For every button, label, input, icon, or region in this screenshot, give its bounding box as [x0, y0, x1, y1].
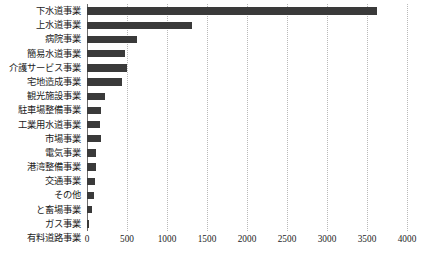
bar-row: [87, 75, 407, 89]
bar: [87, 64, 127, 71]
bar: [87, 50, 125, 57]
bar-row: [87, 217, 407, 231]
bar-row: [87, 89, 407, 103]
category-label: 観光施設事業: [0, 89, 84, 103]
category-label: 上水道事業: [0, 18, 84, 32]
bar-row: [87, 160, 407, 174]
bar-row: [87, 146, 407, 160]
bar: [87, 149, 96, 156]
x-tick-label: 4000: [398, 234, 417, 244]
x-tick-label: 3500: [358, 234, 377, 244]
x-tick-label: 2500: [278, 234, 297, 244]
value-axis-tick-labels: 05001000150020002500300035004000: [0, 234, 425, 254]
bar: [87, 178, 95, 185]
bar: [87, 93, 105, 100]
bar-row: [87, 203, 407, 217]
category-label: 病院事業: [0, 32, 84, 46]
x-tick-label: 1500: [198, 234, 217, 244]
x-tick-label: 500: [120, 234, 134, 244]
category-label: 駐車場整備事業: [0, 103, 84, 117]
category-label: 宅地造成事業: [0, 75, 84, 89]
x-tick-label: 0: [85, 234, 90, 244]
bar-rows: [87, 4, 407, 231]
bar: [87, 7, 377, 14]
bar: [87, 192, 94, 199]
bar: [87, 121, 100, 128]
x-tick-label: 1000: [158, 234, 177, 244]
category-label: 電気事業: [0, 146, 84, 160]
bar: [87, 22, 192, 29]
gridline-4000: [407, 4, 408, 231]
bar-row: [87, 61, 407, 75]
bar: [87, 220, 89, 227]
horizontal-bar-chart: 下水道事業上水道事業病院事業簡易水道事業介護サービス事業宅地造成事業観光施設事業…: [0, 0, 425, 265]
bar: [87, 78, 122, 85]
bar: [87, 163, 96, 170]
category-label: 交通事業: [0, 174, 84, 188]
bar-row: [87, 132, 407, 146]
bar-row: [87, 32, 407, 46]
bar-row: [87, 103, 407, 117]
bar: [87, 206, 92, 213]
bar: [87, 135, 101, 142]
x-tick-label: 2000: [238, 234, 257, 244]
bar-row: [87, 118, 407, 132]
category-label: 下水道事業: [0, 4, 84, 18]
category-label: 介護サービス事業: [0, 61, 84, 75]
bar-row: [87, 47, 407, 61]
bar-row: [87, 18, 407, 32]
category-label: 市場事業: [0, 132, 84, 146]
bar: [87, 36, 137, 43]
plot-area: [87, 4, 407, 231]
category-axis-labels: 下水道事業上水道事業病院事業簡易水道事業介護サービス事業宅地造成事業観光施設事業…: [0, 4, 84, 231]
bar-row: [87, 174, 407, 188]
bar: [87, 107, 101, 114]
category-label: と畜場事業: [0, 203, 84, 217]
bar-row: [87, 188, 407, 202]
category-label: 工業用水道事業: [0, 118, 84, 132]
category-label: その他: [0, 188, 84, 202]
category-label: ガス事業: [0, 217, 84, 231]
x-tick-label: 3000: [318, 234, 337, 244]
category-label: 港湾整備事業: [0, 160, 84, 174]
category-label: 簡易水道事業: [0, 47, 84, 61]
bar-row: [87, 4, 407, 18]
